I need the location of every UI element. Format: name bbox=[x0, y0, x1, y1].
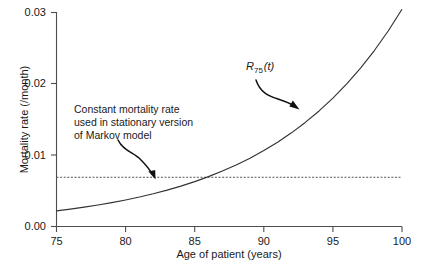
series-label-r: R bbox=[246, 60, 254, 72]
x-tick-label-90: 90 bbox=[244, 236, 284, 247]
x-tick-label-75: 75 bbox=[37, 236, 77, 247]
annotation-line-2: used in stationary version bbox=[74, 116, 193, 129]
plot-area bbox=[0, 0, 421, 269]
y-tick-label-0.00: 0.00 bbox=[6, 221, 46, 232]
x-tick-label-100: 100 bbox=[382, 236, 421, 247]
y-axis-title: Mortality rate (/month) bbox=[19, 40, 30, 200]
series-label-subscript: 75 bbox=[254, 66, 263, 75]
x-tick-label-95: 95 bbox=[313, 236, 353, 247]
constant-rate-arrowhead bbox=[148, 170, 155, 180]
series-label-r75: R75 (t) bbox=[246, 61, 274, 75]
y-tick-label-0.03: 0.03 bbox=[6, 7, 46, 18]
x-axis-title: Age of patient (years) bbox=[56, 249, 402, 260]
x-tick-label-85: 85 bbox=[175, 236, 215, 247]
constant-rate-arrow bbox=[118, 140, 152, 174]
annotation-line-3: of Markov model bbox=[74, 129, 193, 142]
constant-rate-annotation: Constant mortality rate used in stationa… bbox=[74, 103, 193, 142]
series-label-argument: (t) bbox=[264, 60, 274, 72]
x-tick-label-80: 80 bbox=[106, 236, 146, 247]
mortality-rate-chart: 0.03 0.02 0.01 0.00 75 80 85 90 95 100 M… bbox=[0, 0, 421, 269]
series-label-arrow bbox=[256, 80, 293, 105]
series-label-arrowhead bbox=[289, 101, 299, 110]
annotation-line-1: Constant mortality rate bbox=[74, 103, 193, 116]
